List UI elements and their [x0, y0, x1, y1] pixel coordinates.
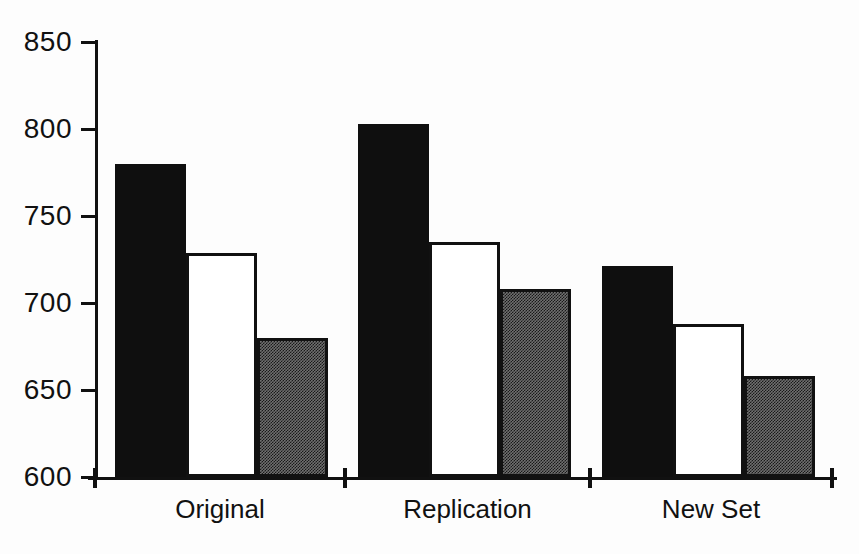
y-tick-850	[81, 41, 95, 44]
bar-original-solid-black	[115, 164, 186, 477]
bar-original-white	[186, 253, 257, 477]
bar-replication-stippled-gray	[500, 289, 571, 477]
y-tick-label-700: 700	[20, 288, 72, 318]
bar-replication-white	[429, 242, 500, 477]
x-axis-tick-1	[343, 468, 347, 488]
y-tick-700	[81, 302, 95, 305]
x-axis-tick-3	[830, 468, 834, 488]
x-category-label-replication: Replication	[358, 494, 578, 525]
y-tick-label-850: 850	[20, 27, 72, 57]
bar-replication-solid-black	[358, 124, 429, 477]
bar-new-set-stippled-gray	[744, 376, 815, 477]
x-category-label-new-set: New Set	[601, 494, 821, 525]
y-axis-line	[95, 40, 98, 477]
x-category-label-original: Original	[110, 494, 330, 525]
y-tick-label-650: 650	[20, 375, 72, 405]
x-axis-tick-2	[588, 468, 592, 488]
y-tick-label-750: 750	[20, 201, 72, 231]
y-tick-label-800: 800	[20, 114, 72, 144]
x-axis-line	[88, 477, 837, 480]
y-tick-800	[81, 128, 95, 131]
y-tick-650	[81, 389, 95, 392]
bar-new-set-solid-black	[602, 266, 673, 477]
bar-original-stippled-gray	[257, 338, 328, 477]
bar-new-set-white	[673, 324, 744, 477]
y-tick-750	[81, 215, 95, 218]
plot-area: 600650700750800850OriginalReplicationNew…	[95, 42, 832, 477]
bar-chart-figure: 600650700750800850OriginalReplicationNew…	[0, 0, 859, 554]
y-tick-label-600: 600	[20, 462, 72, 492]
x-axis-tick-0	[93, 468, 97, 488]
